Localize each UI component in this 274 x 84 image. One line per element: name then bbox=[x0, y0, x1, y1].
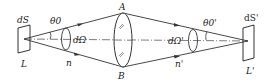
angle-arc-right bbox=[206, 32, 207, 41]
label-image-name: L' bbox=[245, 66, 254, 76]
label-lens-top: A bbox=[118, 2, 126, 12]
angle-arc-left bbox=[50, 32, 51, 39]
label-source-angle: θ0 bbox=[50, 16, 61, 26]
solid-angle-cone-left bbox=[62, 28, 71, 50]
label-lens-bottom: B bbox=[117, 71, 125, 81]
optics-diagram: dS L θ0 dΩ n A B dΩ' θ0' n' dS' L' bbox=[0, 0, 274, 84]
label-source-name: L bbox=[20, 59, 27, 69]
label-image-angle: θ0' bbox=[203, 18, 217, 28]
ray-lower-right bbox=[123, 41, 248, 67]
label-image-area: dS' bbox=[244, 13, 258, 23]
diagram-canvas: dS L θ0 dΩ n A B dΩ' θ0' n' dS' L' bbox=[0, 0, 274, 84]
label-image-solid-angle: dΩ' bbox=[168, 36, 184, 46]
label-source-area: dS bbox=[17, 15, 29, 25]
optical-axis bbox=[24, 39, 248, 41]
arrow-icon bbox=[77, 24, 83, 27]
image-surface bbox=[243, 25, 254, 61]
label-source-solid-angle: dΩ bbox=[73, 35, 87, 45]
label-source-index: n bbox=[66, 58, 72, 68]
ray-upper-right bbox=[123, 13, 248, 41]
label-image-index: n' bbox=[175, 59, 183, 69]
